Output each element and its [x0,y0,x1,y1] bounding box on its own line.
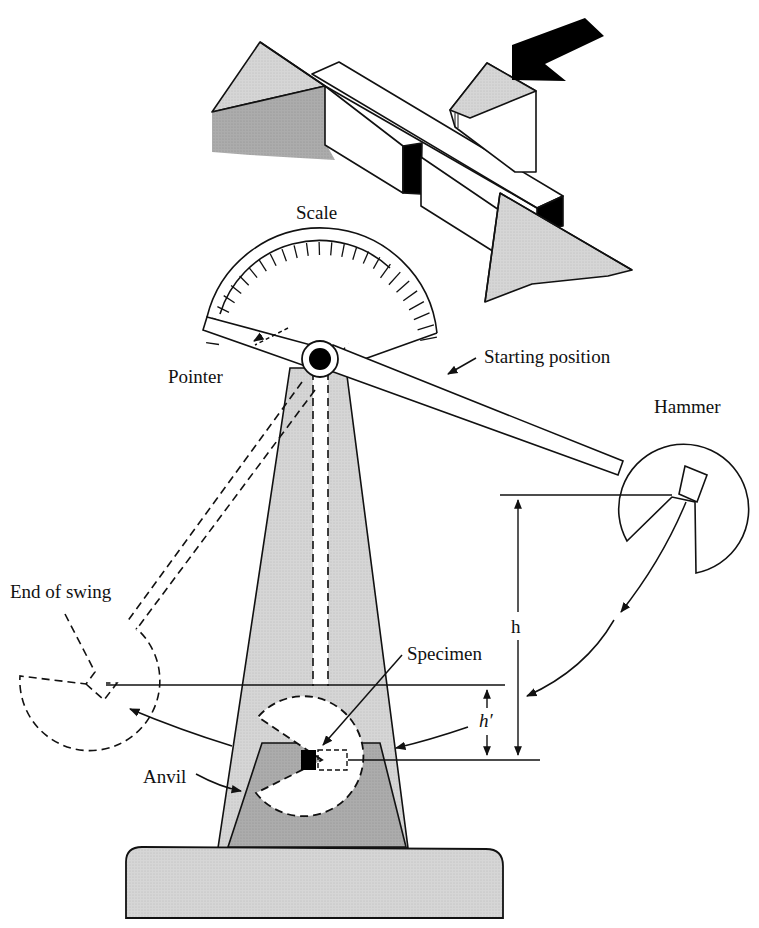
label-pointer: Pointer [168,367,223,386]
vertical-arm-dashed [313,370,328,686]
label-specimen: Specimen [407,644,482,663]
label-hammer: Hammer [654,397,720,416]
label-anvil: Anvil [143,767,186,786]
label-h-prime: h′ [479,711,493,730]
label-scale: Scale [296,203,337,222]
label-end-of-swing: End of swing [10,582,111,601]
diagram-canvas [0,0,759,928]
impact-arrow [512,18,604,81]
charpy-diagram: Scale Pointer Starting position Hammer E… [0,0,759,928]
label-h: h [511,617,521,636]
specimen [301,750,316,770]
label-starting-position: Starting position [484,347,610,366]
base [126,847,503,918]
